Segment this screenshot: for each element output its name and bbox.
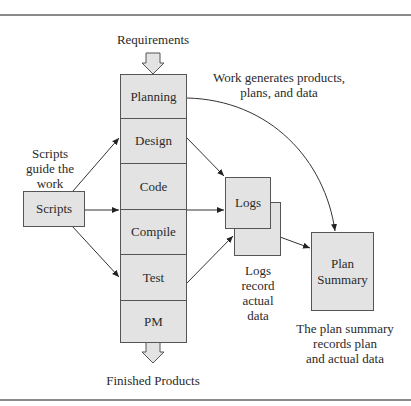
logs-to-plan-summary-arrow xyxy=(280,237,310,248)
finished-products-label: Finished Products xyxy=(98,373,208,388)
plan-summary-caption: The plan summary records plan and actual… xyxy=(290,321,400,366)
phase-planning: Planning xyxy=(121,75,186,119)
logs-caption: Logs record actual data xyxy=(234,263,282,323)
phase-code: Code xyxy=(121,163,186,209)
requirements-label: Requirements xyxy=(113,32,193,47)
logs-box: Logs xyxy=(225,177,271,229)
scripts-box: Scripts xyxy=(23,191,85,227)
phase-test: Test xyxy=(121,254,186,300)
design-to-logs-arrow xyxy=(187,138,224,176)
phase-pm: PM xyxy=(121,300,186,342)
test-to-logs-arrow xyxy=(187,236,233,283)
finished-products-arrow-icon xyxy=(142,342,164,363)
phase-design: Design xyxy=(121,118,186,163)
phase-compile: Compile xyxy=(121,209,186,254)
plan-summary-box: Plan Summary xyxy=(311,232,374,311)
scripts-to-test-arrow xyxy=(72,226,119,277)
work-caption: Work generates products, plans, and data xyxy=(204,70,354,100)
scripts-caption: Scripts guide the work xyxy=(20,146,80,191)
requirements-arrow-icon xyxy=(142,53,164,74)
process-column: Planning Design Code Compile Test PM xyxy=(120,74,187,343)
